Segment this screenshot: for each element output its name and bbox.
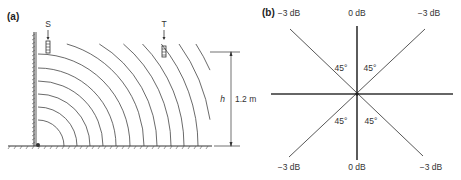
label-bottom-left: −3 dB <box>278 162 301 172</box>
angle-upper-left: 45° <box>335 63 348 73</box>
label-bottom-right: −3 dB <box>420 162 443 172</box>
origin-point-icon <box>355 92 359 96</box>
label-top-center: 0 dB <box>348 8 366 18</box>
target-label: T <box>161 19 166 29</box>
source-label: S <box>45 19 51 29</box>
height-value: 1.2 m <box>235 94 256 104</box>
label-top-left: −3 dB <box>278 8 301 18</box>
sound-wavefronts <box>38 44 210 146</box>
source-speaker-icon <box>46 41 50 53</box>
panel-b: (b) −3 dB 0 dB −3 dB −3 dB 0 dB −3 dB 45… <box>262 7 453 172</box>
angle-lower-right: 45° <box>365 116 378 126</box>
panel-a-label: (a) <box>7 11 19 22</box>
wall <box>32 32 36 146</box>
label-top-right: −3 dB <box>418 8 441 18</box>
angle-lower-left: 45° <box>335 116 348 126</box>
height-dimension: h 1.2 m <box>210 51 256 147</box>
height-symbol: h <box>220 94 225 104</box>
angle-upper-right: 45° <box>364 63 377 73</box>
diagram-canvas: (a) S T <box>0 0 461 180</box>
label-bottom-center: 0 dB <box>348 162 366 172</box>
source-point-icon <box>36 143 40 147</box>
panel-b-label: (b) <box>262 7 275 18</box>
panel-a: (a) S T <box>7 11 256 149</box>
